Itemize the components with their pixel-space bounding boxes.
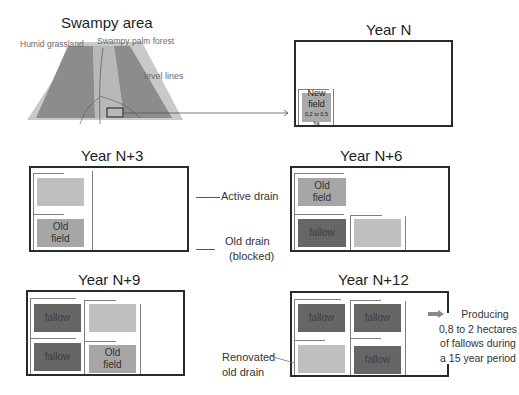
drain-line [294,214,344,215]
drain-line [92,171,93,250]
outcome-line-2: 0,8 to 2 hectares [435,322,519,337]
drain-line [30,338,76,339]
new-field-size: 0,2 to 0,5 ha [302,110,331,128]
swampy-palm-forest-label: Swampy palm forest [97,36,174,46]
old-drain-legend-2: (blocked) [229,249,274,263]
old-field: Old field [89,345,136,373]
field [298,345,345,373]
drain-line [84,300,85,374]
drain-line [350,215,382,216]
year-n9-title: Year N+9 [78,271,140,288]
drain-line [33,214,64,215]
drain-line [33,173,64,174]
active-drain-legend: Active drain [221,189,278,203]
swampy-area-map [0,0,300,130]
drain-line [350,215,351,250]
fallow-field: fallow [298,304,345,332]
old-field: Old field [37,219,84,247]
drain-line [33,173,34,250]
drain-line [294,340,325,341]
level-lines-label: level lines [144,71,184,81]
drain-line [350,338,381,339]
drain-line [294,173,295,250]
outcome-line-3: of fallows during [435,336,519,351]
field [37,178,84,206]
old-drain-legend-line [196,249,215,250]
drain-line [30,298,31,374]
humid-grassland-label: Humid grassland [20,39,84,49]
year-n-title: Year N [366,21,411,38]
drain-line [405,216,406,250]
field [89,304,136,332]
fallow-field: fallow [34,343,81,371]
year-n12-title: Year N+12 [338,271,409,288]
drain-line [294,299,341,300]
renovated-drain-label-1: Renovated [222,350,275,364]
drain-line [298,89,299,125]
year-n3-title: Year N+3 [81,147,143,164]
old-field: Old field [298,178,346,206]
drain-line [140,304,141,374]
drain-line [30,298,76,299]
drain-line [84,300,116,301]
new-field: New field 0,2 to 0,5 ha [302,93,331,122]
fallow-field: fallow [354,304,401,332]
drain-line [350,300,381,301]
fallow-field: fallow [354,346,401,374]
outcome-line-4: a 15 year period [435,351,519,366]
drain-line [333,89,334,125]
fallow-field: fallow [298,219,346,247]
drain-line [294,173,344,174]
outcome-line-1: Producing [435,307,519,322]
drain-line [405,301,406,375]
renovated-drain-pointer [270,350,300,370]
outcome-text: Producing 0,8 to 2 hectares of fallows d… [435,307,519,365]
new-field-label: New field [302,88,331,110]
field [354,219,401,247]
old-drain-legend-1: Old drain [225,234,270,248]
active-drain-legend-line [196,197,220,198]
renovated-drain-label-2: old drain [222,365,264,379]
drain-line [84,341,116,342]
year-n6-title: Year N+6 [340,147,402,164]
fallow-field: fallow [34,304,81,332]
